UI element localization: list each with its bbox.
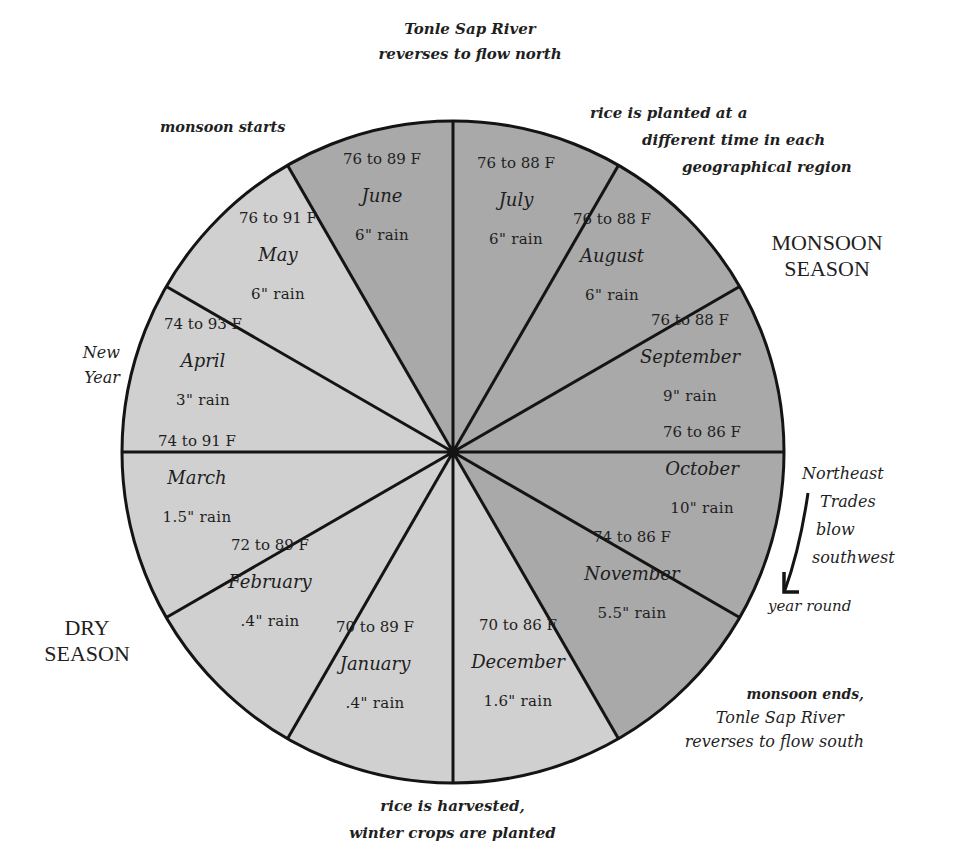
label-line: year round [768,594,851,619]
label-line: monsoon ends, [634,682,864,706]
month-name: January [336,653,411,674]
label-line: Trades [800,488,895,516]
temperature-range: 76 to 88 F [651,311,729,329]
temperature-range: 76 to 86 F [663,423,741,441]
temperature-range: 76 to 91 F [239,209,317,227]
label-monsoon-starts: monsoon starts [160,114,285,139]
month-name: April [179,350,226,371]
rainfall: 5.5" rain [598,604,667,622]
label-monsoon-ends: monsoon ends, Tonle Sap River reverses t… [634,682,864,754]
segment-label-january: 70 to 89 FJanuary.4" rain [336,618,414,712]
rainfall: 1.5" rain [163,508,232,526]
rainfall: 6" rain [489,230,543,248]
segment-label-march: 74 to 91 FMarch1.5" rain [158,432,236,526]
month-name: July [495,189,535,210]
label-monsoon-season: MONSOON SEASON [752,230,902,282]
month-name: March [166,467,226,488]
label-line: MONSOON [752,230,902,256]
rainfall: 1.6" rain [484,692,553,710]
climate-wheel-diagram: 76 to 88 FJuly6" rain76 to 88 FAugust6" … [0,0,957,852]
label-year-round: year round [768,594,851,619]
label-line: reverses to flow south [634,730,864,754]
label-new-year: New Year [62,340,120,390]
label-line: blow [800,516,895,544]
temperature-range: 74 to 86 F [593,528,671,546]
label-line: monsoon starts [160,114,285,139]
label-line: Year [62,365,120,390]
label-line: winter crops are planted [325,820,580,847]
label-line: different time in each [590,127,852,154]
month-name: May [257,244,298,265]
label-line: DRY [22,615,152,641]
month-name: November [583,563,681,584]
label-line: Northeast [800,460,895,488]
month-name: October [665,458,740,479]
month-name: September [640,346,742,367]
temperature-range: 74 to 93 F [164,315,242,333]
rainfall: 3" rain [176,391,230,409]
label-line: Tonle Sap River [634,706,864,730]
rainfall: .4" rain [346,694,405,712]
temperature-range: 74 to 91 F [158,432,236,450]
label-line: rice is harvested, [325,793,580,820]
temperature-range: 76 to 88 F [477,154,555,172]
label-line: rice is planted at a [590,100,852,127]
label-line: Tonle Sap River [372,17,568,42]
label-river-north: Tonle Sap River reverses to flow north [372,17,568,67]
month-name: August [578,245,645,266]
label-line: SEASON [22,641,152,667]
label-dry-season: DRY SEASON [22,615,152,667]
rainfall: .4" rain [241,612,300,630]
label-line: SEASON [752,256,902,282]
label-northeast-trades: Northeast Trades blow southwest [800,460,895,572]
label-line: New [62,340,120,365]
month-name: June [357,185,402,206]
label-line: southwest [800,544,895,572]
month-name: December [470,651,566,672]
temperature-range: 76 to 89 F [343,150,421,168]
segment-label-december: 70 to 86 FDecember1.6" rain [470,616,566,710]
month-name: February [227,571,312,592]
segment-label-november: 74 to 86 FNovember5.5" rain [583,528,681,622]
temperature-range: 76 to 88 F [573,210,651,228]
temperature-range: 70 to 86 F [479,616,557,634]
rainfall: 6" rain [355,226,409,244]
rainfall: 10" rain [670,499,734,517]
label-rice-planted: rice is planted at a different time in e… [590,100,852,181]
label-rice-harvested: rice is harvested, winter crops are plan… [325,793,580,847]
label-line: geographical region [590,154,852,181]
label-line: reverses to flow north [372,42,568,67]
temperature-range: 70 to 89 F [336,618,414,636]
rainfall: 6" rain [585,286,639,304]
rainfall: 6" rain [251,285,305,303]
rainfall: 9" rain [663,387,717,405]
wheel-hub [447,446,459,458]
segment-label-october: 76 to 86 FOctober10" rain [663,423,741,517]
temperature-range: 72 to 89 F [231,536,309,554]
